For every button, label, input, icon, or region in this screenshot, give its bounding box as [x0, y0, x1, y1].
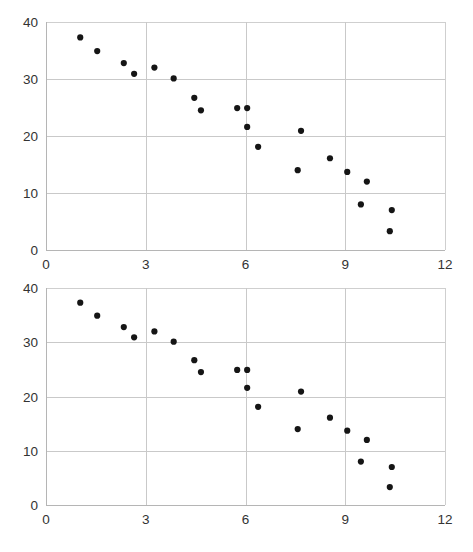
y-tick-label: 40 — [23, 281, 38, 296]
scatter-chart-top: 010203040036912 — [0, 0, 473, 276]
data-point — [191, 95, 197, 101]
data-point — [131, 71, 137, 77]
data-point — [121, 60, 127, 66]
data-point — [364, 437, 370, 443]
data-point — [389, 207, 395, 213]
scatter-chart-bottom: 010203040036912 — [0, 276, 473, 552]
data-point — [191, 357, 197, 363]
data-point — [327, 155, 333, 161]
data-point — [327, 415, 333, 421]
x-tick-label: 12 — [437, 257, 452, 272]
x-tick-label: 3 — [142, 257, 150, 272]
data-point — [171, 75, 177, 81]
plot-area: 010203040036912 — [0, 276, 473, 552]
x-tick-label: 9 — [341, 257, 349, 272]
x-tick-label: 3 — [142, 512, 150, 527]
y-tick-label: 40 — [23, 15, 38, 30]
data-point — [234, 367, 240, 373]
y-tick-label: 30 — [23, 335, 38, 350]
data-point — [198, 369, 204, 375]
y-tick-label: 10 — [23, 444, 38, 459]
x-tick-label: 0 — [42, 512, 50, 527]
data-point — [344, 169, 350, 175]
data-point — [198, 107, 204, 113]
x-tick-label: 9 — [341, 512, 349, 527]
data-point — [121, 324, 127, 330]
data-point — [298, 128, 304, 134]
data-point — [295, 426, 301, 432]
y-tick-label: 10 — [23, 186, 38, 201]
x-tick-label: 6 — [242, 512, 250, 527]
data-point — [255, 404, 261, 410]
data-point — [234, 105, 240, 111]
data-point — [387, 484, 393, 490]
y-tick-label: 30 — [23, 72, 38, 87]
x-tick-label: 0 — [42, 257, 50, 272]
x-tick-label: 6 — [242, 257, 250, 272]
data-point — [387, 228, 393, 234]
figure-canvas: 010203040036912 010203040036912 — [0, 0, 473, 552]
y-tick-label: 0 — [30, 243, 38, 258]
data-point — [298, 389, 304, 395]
data-point — [151, 65, 157, 71]
data-point — [244, 367, 250, 373]
data-point — [77, 300, 83, 306]
data-point — [358, 459, 364, 465]
x-tick-label: 12 — [437, 512, 452, 527]
data-point — [94, 313, 100, 319]
data-point — [77, 34, 83, 40]
data-point — [131, 334, 137, 340]
data-point — [94, 48, 100, 54]
data-point — [295, 167, 301, 173]
data-point — [151, 328, 157, 334]
data-point — [171, 339, 177, 345]
data-point — [244, 385, 250, 391]
data-point — [244, 124, 250, 130]
data-point — [364, 179, 370, 185]
data-point — [358, 201, 364, 207]
data-point — [344, 428, 350, 434]
y-tick-label: 20 — [23, 129, 38, 144]
y-tick-label: 0 — [30, 498, 38, 513]
y-tick-label: 20 — [23, 390, 38, 405]
data-point — [255, 144, 261, 150]
data-point — [244, 105, 250, 111]
plot-area: 010203040036912 — [0, 0, 473, 276]
data-point — [389, 464, 395, 470]
